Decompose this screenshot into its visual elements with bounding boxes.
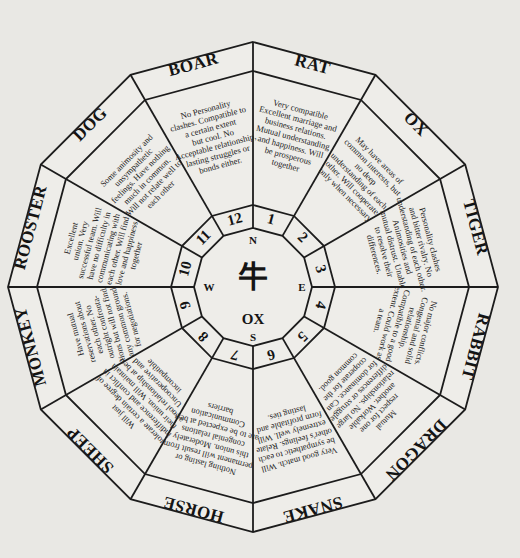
compass-north: N <box>249 234 257 246</box>
compass-east: E <box>298 281 305 293</box>
compass-south: S <box>250 331 256 343</box>
hub-sign-name: OX <box>242 311 265 327</box>
wheel-diagram: RATOXTIGERRABBITDRAGONSNAKEHORSESHEEPMON… <box>0 0 520 558</box>
compass-west: W <box>204 281 215 293</box>
ox-character-icon: 牛 <box>238 259 268 294</box>
zodiac-compatibility-wheel: RATOXTIGERRABBITDRAGONSNAKEHORSESHEEPMON… <box>0 0 520 558</box>
